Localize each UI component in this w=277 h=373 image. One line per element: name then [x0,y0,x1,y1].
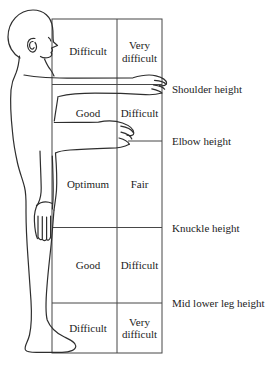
elbow-arm-top [54,121,134,136]
shoulder-arm-underside [59,93,162,97]
elbow-height-label: Elbow height [172,134,275,148]
hanging-hand-fingers [38,216,51,241]
elbow-arm-underside [56,144,130,153]
mid-lower-leg-height-label: Mid lower leg height [172,296,275,310]
eye-hint [49,38,51,42]
shoulder-hand-fingers [152,80,166,93]
reach-zone-grid [52,19,162,353]
ear-icon [28,38,37,52]
shoulder-height-label: Shoulder height [172,82,275,96]
head-outline [8,10,58,58]
back-leg-foot-outline [11,56,76,352]
neck-front [45,59,55,76]
chest-front [54,97,58,122]
ergonomics-reach-diagram: Difficult Very difficult Good Difficult … [0,0,277,373]
abdomen-front [54,153,57,210]
knuckle-height-label: Knuckle height [172,221,275,235]
standing-human-figure-icon [8,10,167,352]
diagram-artwork [0,0,277,373]
